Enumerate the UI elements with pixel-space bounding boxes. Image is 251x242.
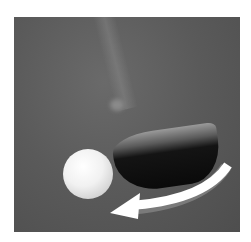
swing-arrow-icon (14, 17, 240, 232)
golf-photo (14, 17, 240, 232)
